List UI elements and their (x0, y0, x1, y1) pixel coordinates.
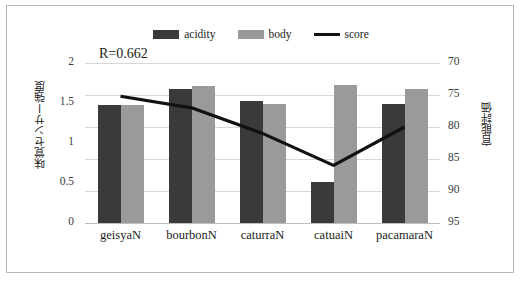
y-axis-right-tick-label: 70 (448, 55, 460, 67)
x-axis-category-labels: geisyaNbourbonNcaturraNcatuaiNpacamaraN (85, 228, 440, 243)
x-axis-category-label: caturraN (229, 228, 296, 243)
gridline (85, 223, 440, 224)
legend-item-body: body (238, 28, 292, 40)
bar-body[interactable] (405, 89, 428, 223)
chart-legend: acidity body score (7, 28, 515, 40)
legend-label-score: score (345, 28, 369, 40)
legend-label-acidity: acidity (184, 28, 215, 40)
y-axis-right-tick-label: 90 (448, 183, 460, 195)
y-axis-right-tick-label: 95 (448, 215, 460, 227)
bar-acidity[interactable] (169, 89, 192, 223)
legend-item-score: score (314, 28, 369, 40)
x-axis-category-label: catuaiN (300, 228, 367, 243)
bar-acidity[interactable] (240, 101, 263, 223)
bar-group (158, 63, 225, 223)
y-axis-title-left: 味覚センサー強度 (32, 81, 48, 169)
bar-acidity[interactable] (382, 104, 405, 223)
y-axis-left-tick-label: 1 (68, 135, 74, 147)
bar-group (87, 63, 154, 223)
legend-swatch-score-icon (314, 33, 340, 36)
y-axis-left-tick-label: 1.5 (60, 95, 74, 107)
plot-area (85, 63, 440, 223)
x-axis-category-label: bourbonN (158, 228, 225, 243)
bar-body[interactable] (121, 105, 144, 223)
bar-body[interactable] (334, 85, 357, 223)
y-axis-left-tick-label: 0.5 (60, 175, 74, 187)
y-axis-left-tick-label: 2 (68, 55, 74, 67)
bar-body[interactable] (263, 104, 286, 223)
correlation-annotation: R=0.662 (99, 46, 148, 62)
bar-group (300, 63, 367, 223)
y-axis-right-tick-label: 85 (448, 151, 460, 163)
bar-group (229, 63, 296, 223)
y-axis-right-tick-label: 75 (448, 87, 460, 99)
chart-frame: acidity body score R=0.662 味覚センサー強度 官能評価… (6, 5, 514, 273)
bar-group (371, 63, 438, 223)
x-axis-category-label: geisyaN (87, 228, 154, 243)
legend-swatch-acidity-icon (153, 30, 179, 39)
x-axis-category-label: pacamaraN (371, 228, 438, 243)
legend-label-body: body (269, 28, 292, 40)
bar-acidity[interactable] (311, 182, 334, 223)
bar-series-container (85, 63, 440, 223)
y-axis-title-right: 官能評価 (479, 102, 495, 146)
bar-acidity[interactable] (98, 105, 121, 223)
legend-item-acidity: acidity (153, 28, 215, 40)
bar-body[interactable] (192, 86, 215, 223)
y-axis-right-tick-label: 80 (448, 119, 460, 131)
y-axis-left-tick-label: 0 (68, 215, 74, 227)
legend-swatch-body-icon (238, 30, 264, 39)
